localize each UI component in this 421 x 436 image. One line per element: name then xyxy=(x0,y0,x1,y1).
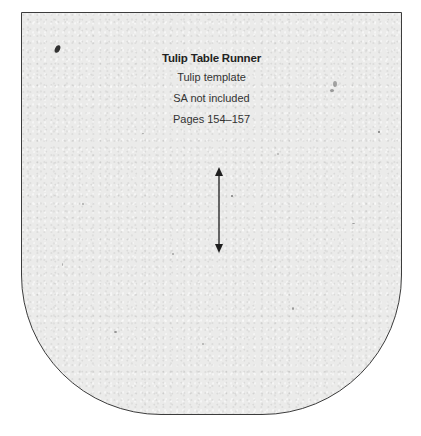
paper-speck xyxy=(202,343,204,345)
paper-speck xyxy=(82,203,84,205)
paper-speck xyxy=(352,223,355,224)
grainline-double-arrow-icon xyxy=(213,167,225,253)
tulip-table-runner-template-shape: Tulip Table Runner Tulip template SA not… xyxy=(21,12,402,415)
seam-allowance-note: SA not included xyxy=(22,91,401,105)
template-title: Tulip Table Runner xyxy=(22,51,401,65)
paper-speck xyxy=(114,331,117,333)
page-reference: Pages 154–157 xyxy=(22,112,401,126)
template-label: Tulip Table Runner Tulip template SA not… xyxy=(22,51,401,126)
paper-speck xyxy=(231,195,233,197)
paper-speck xyxy=(62,263,63,266)
paper-speck xyxy=(292,307,294,310)
template-subtitle: Tulip template xyxy=(22,70,401,84)
paper-speck xyxy=(172,253,174,255)
paper-speck xyxy=(378,131,380,133)
paper-speck xyxy=(142,133,144,134)
paper-speck xyxy=(277,153,279,155)
